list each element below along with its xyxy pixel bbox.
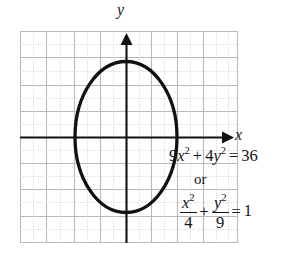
frac-rhs: 1 bbox=[244, 201, 252, 220]
eq-equals: = bbox=[226, 148, 241, 165]
equation-standard-form: 9x2+4y2=36 bbox=[169, 146, 258, 165]
frac-exp-y: 2 bbox=[221, 192, 226, 203]
frac-plus: + bbox=[197, 204, 212, 221]
fraction-x-term: x24 bbox=[180, 192, 197, 231]
fraction-x-numerator: x2 bbox=[180, 192, 197, 213]
eq-var-x: x bbox=[177, 146, 184, 165]
eq-var-y: y bbox=[213, 146, 220, 165]
fraction-y-term: y29 bbox=[212, 192, 229, 231]
equation-connector-or: or bbox=[194, 172, 207, 187]
eq-plus: + bbox=[190, 148, 205, 165]
frac-exp-x: 2 bbox=[189, 192, 194, 203]
eq-rhs: 36 bbox=[241, 146, 258, 165]
fraction-y-numerator: y2 bbox=[212, 192, 229, 213]
fraction-y-denominator: 9 bbox=[212, 213, 229, 231]
y-axis-label: y bbox=[117, 2, 124, 18]
frac-equals: = bbox=[229, 204, 244, 221]
eq-coef-x: 9 bbox=[169, 146, 177, 165]
x-axis-label: x bbox=[235, 127, 242, 143]
fraction-x-denominator: 4 bbox=[180, 213, 197, 231]
equation-fraction-form: x24+y29=1 bbox=[180, 193, 252, 232]
ellipse-graph-figure bbox=[0, 0, 303, 255]
